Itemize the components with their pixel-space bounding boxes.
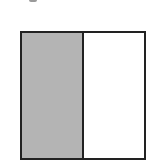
- unshaded-part: [84, 33, 144, 158]
- fraction-square: [20, 31, 146, 160]
- cropped-mark: [29, 0, 37, 2]
- shaded-part: [22, 33, 84, 158]
